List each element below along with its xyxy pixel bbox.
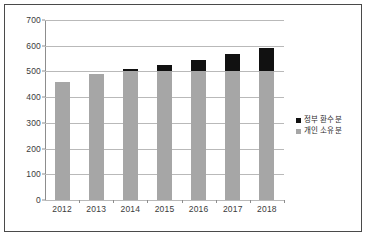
x-axis-tick-mark xyxy=(113,200,114,203)
bar-segment-government[interactable] xyxy=(225,54,240,71)
bar-segment-private[interactable] xyxy=(225,71,240,200)
bar-segment-private[interactable] xyxy=(191,71,206,200)
legend-swatch-private xyxy=(296,129,301,134)
x-axis-tick-label: 2017 xyxy=(216,204,250,214)
y-axis-tick-label: 300 xyxy=(26,118,41,128)
bar-column[interactable] xyxy=(55,82,70,200)
legend-item: 개인 소유분 xyxy=(296,126,342,137)
y-axis-tick-mark xyxy=(42,148,45,149)
bar-column[interactable] xyxy=(157,65,172,200)
legend-label-government: 정부 환수분 xyxy=(304,115,342,126)
bar-segment-private[interactable] xyxy=(123,71,138,200)
bar-segment-government[interactable] xyxy=(191,60,206,71)
x-axis-tick-label: 2016 xyxy=(182,204,216,214)
gridline xyxy=(45,20,284,21)
bar-column[interactable] xyxy=(259,48,274,200)
y-axis-tick-label: 100 xyxy=(26,169,41,179)
y-axis-tick-mark xyxy=(42,45,45,46)
legend-label-private: 개인 소유분 xyxy=(304,126,342,137)
x-axis-tick-label: 2015 xyxy=(147,204,181,214)
y-axis-tick-mark xyxy=(42,122,45,123)
y-axis-tick-label: 0 xyxy=(36,195,41,205)
x-axis-tick-mark xyxy=(284,200,285,203)
legend-item: 정부 환수분 xyxy=(296,115,342,126)
bar-column[interactable] xyxy=(89,74,104,200)
bar-segment-private[interactable] xyxy=(55,82,70,200)
chart-frame: 0100200300400500600700 20122013201420152… xyxy=(4,4,362,232)
bar-column[interactable] xyxy=(191,60,206,200)
y-axis-tick-mark xyxy=(42,20,45,21)
bar-column[interactable] xyxy=(225,54,240,200)
y-axis-tick-mark xyxy=(42,71,45,72)
x-axis-tick-mark xyxy=(79,200,80,203)
bar-segment-private[interactable] xyxy=(89,74,104,200)
x-axis-tick-label: 2018 xyxy=(250,204,284,214)
legend-swatch-government xyxy=(296,118,301,123)
x-axis-tick-mark xyxy=(182,200,183,203)
chart-canvas: 0100200300400500600700 20122013201420152… xyxy=(5,5,361,231)
y-axis-tick-label: 700 xyxy=(26,15,41,25)
y-axis-tick-label: 400 xyxy=(26,92,41,102)
chart-legend: 정부 환수분 개인 소유분 xyxy=(296,115,342,137)
y-axis-tick-label: 200 xyxy=(26,144,41,154)
x-axis-tick-label: 2012 xyxy=(45,204,79,214)
x-axis-tick-label: 2013 xyxy=(79,204,113,214)
bar-segment-government[interactable] xyxy=(259,48,274,72)
plot-area: 0100200300400500600700 xyxy=(45,20,284,200)
x-axis-tick-mark xyxy=(250,200,251,203)
y-axis-tick-mark xyxy=(42,97,45,98)
y-axis-tick-label: 600 xyxy=(26,41,41,51)
y-axis-tick-mark xyxy=(42,174,45,175)
x-axis-tick-label: 2014 xyxy=(113,204,147,214)
y-axis-tick-label: 500 xyxy=(26,66,41,76)
gridline xyxy=(45,200,284,201)
y-axis-tick-mark xyxy=(42,200,45,201)
bar-column[interactable] xyxy=(123,69,138,200)
x-axis-tick-mark xyxy=(147,200,148,203)
bar-segment-private[interactable] xyxy=(259,71,274,200)
x-axis-tick-mark xyxy=(216,200,217,203)
gridline xyxy=(45,46,284,47)
bar-segment-private[interactable] xyxy=(157,71,172,200)
